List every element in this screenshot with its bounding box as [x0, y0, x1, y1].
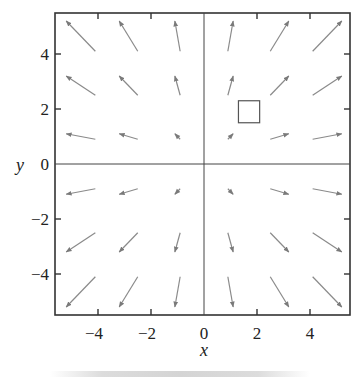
vector-arrow [175, 277, 180, 307]
vector-arrow [270, 189, 289, 195]
vector-arrow [313, 21, 342, 51]
vector-arrow [66, 134, 95, 140]
vector-arrow [66, 76, 95, 95]
y-tick-label: 4 [41, 45, 50, 64]
vector-arrow [228, 134, 233, 140]
x-tick-label: −4 [85, 324, 104, 343]
vector-arrow [270, 233, 289, 252]
vector-arrow [175, 21, 180, 51]
vector-field-plot: −4−2024 −4−2024 x y [0, 0, 359, 381]
vector-arrow [270, 134, 289, 140]
scan-artifact-band [50, 371, 310, 377]
vector-arrow [313, 277, 342, 307]
y-tick-label: 0 [41, 155, 50, 174]
vector-arrow [228, 233, 233, 252]
vector-arrow [175, 233, 180, 252]
origin-axis-lines [55, 13, 350, 315]
vector-arrow [66, 189, 95, 195]
vector-arrow [119, 277, 138, 307]
vector-arrow [119, 21, 138, 51]
vector-arrow [228, 76, 233, 95]
y-tick-label: −4 [31, 265, 50, 284]
vector-arrow [313, 233, 342, 252]
y-tick-label: 2 [41, 100, 50, 119]
y-tick-labels: −4−2024 [31, 45, 50, 284]
x-tick-label: 4 [306, 324, 315, 343]
vector-arrow [119, 76, 138, 95]
vector-arrow [228, 277, 233, 307]
vector-arrow [66, 233, 95, 252]
vector-arrow [66, 277, 95, 307]
vector-arrow [119, 233, 138, 252]
x-tick-label: 2 [253, 324, 262, 343]
vector-arrow [119, 189, 138, 195]
x-axis-label: x [199, 340, 208, 360]
vector-arrow [119, 134, 138, 140]
vector-arrow [270, 277, 289, 307]
vector-arrow [228, 21, 233, 51]
vector-arrow [270, 76, 289, 95]
x-tick-label: −2 [138, 324, 156, 343]
vector-arrow [313, 189, 342, 195]
vector-arrow [228, 189, 233, 195]
vector-arrow [313, 134, 342, 140]
vector-arrow [175, 76, 180, 95]
y-axis-label: y [14, 155, 24, 175]
highlight-square [238, 101, 259, 123]
square-annotation [238, 101, 259, 123]
vector-arrow [66, 21, 95, 51]
vector-arrow [175, 189, 180, 195]
vector-arrow [270, 21, 289, 51]
y-tick-label: −2 [31, 210, 49, 229]
vector-arrow [313, 76, 342, 95]
vector-arrow [175, 134, 180, 140]
